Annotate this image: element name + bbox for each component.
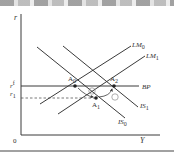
circle-step2 [112, 94, 118, 100]
is1-label: IS1 [139, 102, 149, 111]
lm1-label: LM1 [145, 52, 159, 61]
a0-label: A0 [68, 75, 76, 84]
point-a0 [73, 84, 77, 88]
lm0-label: LM0 [131, 41, 145, 50]
a1-label: A1 [92, 101, 100, 110]
x-axis-label: Y [140, 136, 146, 145]
bp-label: BP [142, 83, 151, 91]
point-a1 [94, 96, 98, 100]
r1-label: r1 [10, 90, 16, 99]
point-a2 [112, 84, 116, 88]
arrow-step2 [99, 89, 112, 97]
a2-label: A2 [110, 75, 118, 84]
origin-label: 0 [13, 137, 17, 145]
is0-label: IS0 [117, 118, 127, 127]
rf-label: rf [10, 80, 15, 90]
is-lm-bp-diagram: r Y 0 rf r1 LM0 LM1 IS0 IS1 BP A0 A1 A2 [0, 0, 174, 157]
y-axis-label: r [14, 13, 18, 22]
